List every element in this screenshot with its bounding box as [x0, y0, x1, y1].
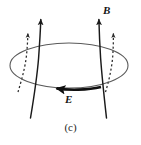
- physics-field-diagram: B E (c): [0, 0, 141, 145]
- b-field-line-back-left-group: [18, 34, 28, 93]
- current-loop: [10, 43, 128, 88]
- electric-field-label: E: [65, 94, 72, 105]
- b-field-line-front-left-group: [31, 20, 41, 119]
- b-field-line-front-right: [99, 20, 107, 119]
- figure-caption: (c): [0, 122, 141, 133]
- b-field-line-front-right-group: [99, 20, 107, 119]
- magnetic-field-label: B: [103, 5, 110, 16]
- b-field-line-back-left: [18, 34, 28, 93]
- b-field-line-front-left: [31, 20, 41, 119]
